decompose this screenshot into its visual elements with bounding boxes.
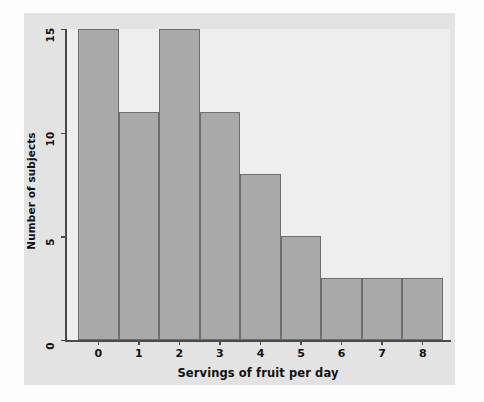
bar (321, 278, 362, 340)
x-tick-label: 5 (297, 347, 305, 360)
x-tick-label: 4 (257, 347, 265, 360)
x-axis-title: Servings of fruit per day (66, 366, 450, 380)
x-tick-mark (300, 340, 301, 345)
y-axis-line (65, 29, 67, 341)
x-tick-label: 6 (338, 347, 346, 360)
bar (281, 236, 322, 340)
y-tick-label: 5 (44, 239, 56, 247)
y-tick-mark (61, 340, 66, 341)
x-tick-mark (422, 340, 423, 345)
x-axis-line (65, 340, 451, 342)
x-tick-mark (179, 340, 180, 345)
y-tick-label: 15 (44, 27, 56, 42)
bar (119, 112, 160, 340)
y-axis-title: Number of subjects (25, 132, 37, 249)
x-tick-mark (98, 340, 99, 345)
x-tick-mark (381, 340, 382, 345)
y-tick-mark (61, 133, 66, 134)
x-tick-label: 0 (94, 347, 102, 360)
y-tick-mark (61, 236, 66, 237)
y-tick-label: 10 (44, 131, 56, 146)
x-tick-mark (260, 340, 261, 345)
bar (159, 29, 200, 340)
histogram-figure: 051015 012345678 Number of subjects Serv… (0, 0, 484, 402)
x-tick-mark (341, 340, 342, 345)
bar (402, 278, 443, 340)
x-tick-mark (138, 340, 139, 345)
x-tick-label: 7 (378, 347, 386, 360)
bar (240, 174, 281, 340)
bar (200, 112, 241, 340)
bar (362, 278, 403, 340)
y-tick-label: 0 (44, 342, 56, 350)
x-tick-label: 3 (216, 347, 224, 360)
bar (78, 29, 119, 340)
x-tick-label: 2 (176, 347, 184, 360)
x-tick-mark (219, 340, 220, 345)
y-tick-mark (61, 29, 66, 30)
x-tick-label: 1 (135, 347, 143, 360)
x-tick-label: 8 (419, 347, 427, 360)
plot-area (66, 29, 450, 340)
